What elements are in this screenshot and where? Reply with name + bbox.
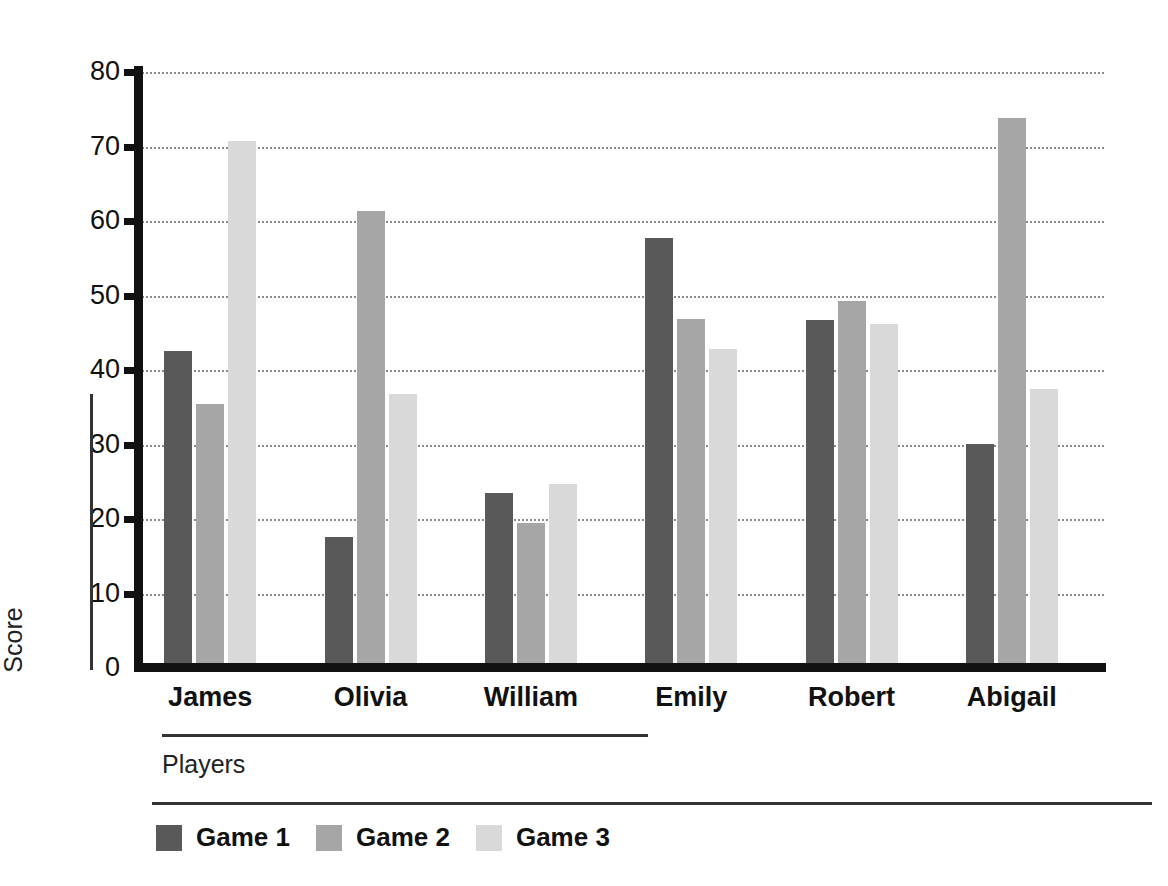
legend-item[interactable]: Game 1 xyxy=(156,822,290,853)
legend-rule xyxy=(152,802,1152,805)
bar xyxy=(549,484,577,668)
bar-group xyxy=(966,72,1058,668)
y-axis-tick-labels: 01020304050607080 xyxy=(58,0,120,886)
y-axis-tick-label: 20 xyxy=(68,505,120,532)
bar-group xyxy=(806,72,898,668)
bar-group xyxy=(164,72,256,668)
legend-label: Game 2 xyxy=(356,822,450,853)
bar xyxy=(645,238,673,668)
bar xyxy=(164,351,192,668)
bar-group xyxy=(485,72,577,668)
y-axis-title: Score xyxy=(0,560,28,720)
bar xyxy=(228,141,256,668)
bar xyxy=(709,349,737,668)
bar xyxy=(325,537,353,668)
x-axis-category-label: William xyxy=(445,682,617,713)
legend-item[interactable]: Game 3 xyxy=(476,822,610,853)
bar xyxy=(998,118,1026,668)
bar-group xyxy=(325,72,417,668)
x-axis-title-rule xyxy=(162,734,648,737)
legend-label: Game 1 xyxy=(196,822,290,853)
y-axis-tick-label: 10 xyxy=(68,580,120,607)
legend-swatch-icon xyxy=(316,825,342,851)
bar xyxy=(485,493,513,668)
bar xyxy=(357,211,385,668)
y-axis-tick-label: 0 xyxy=(68,654,120,681)
y-axis-tick-label: 70 xyxy=(68,133,120,160)
bar xyxy=(517,523,545,668)
x-axis-category-label: Olivia xyxy=(285,682,457,713)
x-axis-category-label: Emily xyxy=(605,682,777,713)
legend: Game 1Game 2Game 3 xyxy=(156,822,610,853)
y-axis-title-rule xyxy=(90,394,93,670)
bar xyxy=(838,301,866,668)
y-axis-line xyxy=(134,66,143,672)
bar xyxy=(870,324,898,668)
y-axis-tick-label: 80 xyxy=(68,58,120,85)
bar xyxy=(389,394,417,668)
y-axis-tick-label: 30 xyxy=(68,431,120,458)
x-axis-title: Players xyxy=(162,750,245,779)
bar xyxy=(196,404,224,668)
bar-chart: 01020304050607080 JamesOliviaWilliamEmil… xyxy=(0,0,1168,886)
legend-swatch-icon xyxy=(156,825,182,851)
bar xyxy=(1030,389,1058,668)
y-axis-tick-label: 50 xyxy=(68,282,120,309)
bars-layer xyxy=(142,72,1104,668)
bar xyxy=(806,320,834,668)
bar xyxy=(966,444,994,668)
legend-swatch-icon xyxy=(476,825,502,851)
x-axis-category-label: Robert xyxy=(766,682,938,713)
x-axis-line xyxy=(134,663,1106,672)
y-axis-tick-label: 60 xyxy=(68,207,120,234)
bar xyxy=(677,319,705,668)
x-axis-category-label: James xyxy=(124,682,296,713)
legend-label: Game 3 xyxy=(516,822,610,853)
plot-area xyxy=(142,72,1104,668)
x-axis-category-label: Abigail xyxy=(926,682,1098,713)
y-axis-tick-label: 40 xyxy=(68,356,120,383)
bar-group xyxy=(645,72,737,668)
legend-item[interactable]: Game 2 xyxy=(316,822,450,853)
